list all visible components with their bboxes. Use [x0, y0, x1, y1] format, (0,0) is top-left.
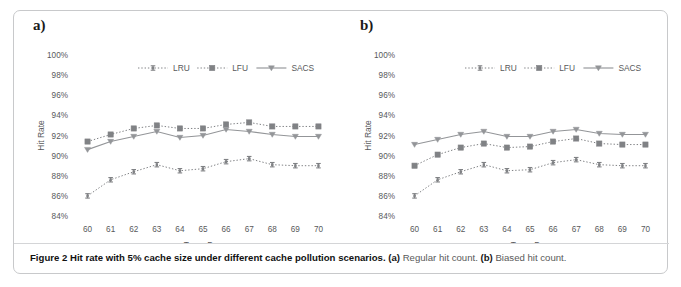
x-tick-label: 69	[291, 225, 301, 234]
y-tick-label: 100%	[47, 51, 68, 60]
x-tick-label: 65	[525, 225, 535, 234]
figure-caption: Figure 2 Hit rate with 5% cache size und…	[30, 251, 659, 264]
legend-label: SACS	[618, 63, 641, 73]
figure-root: a) 84%86%88%90%92%94%96%98%100%Hit Rate6…	[0, 0, 681, 287]
x-tick-label: 61	[106, 225, 116, 234]
series-line	[415, 160, 646, 196]
legend-label: SACS	[291, 63, 314, 73]
caption-a-text: Regular hit count.	[400, 252, 481, 263]
y-tick-label: 94%	[52, 111, 68, 120]
y-tick-label: 86%	[379, 192, 395, 201]
x-tick-label: 70	[314, 225, 324, 234]
panel-a-regular-hit-count: a) 84%86%88%90%92%94%96%98%100%Hit Rate6…	[14, 11, 341, 243]
caption-b-text: Biased hit count.	[493, 252, 567, 263]
x-tick-label: 68	[595, 225, 605, 234]
y-tick-label: 100%	[374, 51, 395, 60]
x-tick-label: 67	[245, 225, 255, 234]
x-tick-label: 65	[198, 225, 208, 234]
x-tick-label: 66	[549, 225, 559, 234]
y-tick-label: 88%	[379, 172, 395, 181]
y-tick-label: 92%	[52, 132, 68, 141]
x-tick-label: 61	[433, 225, 443, 234]
caption-a-label: (a)	[388, 252, 400, 263]
y-tick-label: 94%	[379, 111, 395, 120]
y-tick-label: 96%	[379, 91, 395, 100]
y-axis-title: Hit Rate	[36, 120, 46, 151]
legend-label: LRU	[173, 63, 190, 73]
x-tick-label: 62	[129, 225, 139, 234]
x-tick-label: 69	[618, 225, 628, 234]
caption-b-label: (b)	[481, 252, 493, 263]
y-tick-label: 92%	[379, 132, 395, 141]
y-tick-label: 90%	[52, 152, 68, 161]
figure-border-box: a) 84%86%88%90%92%94%96%98%100%Hit Rate6…	[13, 10, 668, 274]
caption-figure-number: Figure 2	[30, 252, 67, 263]
legend-label: LRU	[500, 63, 517, 73]
x-tick-label: 60	[410, 225, 420, 234]
x-tick-label: 64	[502, 225, 512, 234]
legend-label: LFU	[232, 63, 248, 73]
x-tick-label: 62	[456, 225, 466, 234]
y-tick-label: 96%	[52, 91, 68, 100]
series-lfu	[412, 136, 648, 168]
legend-marker-square	[210, 65, 215, 70]
x-tick-label: 60	[83, 225, 93, 234]
panels-container: a) 84%86%88%90%92%94%96%98%100%Hit Rate6…	[14, 11, 669, 243]
caption-title: Hit rate with 5% cache size under differ…	[67, 252, 388, 263]
chart-a-svg: 84%86%88%90%92%94%96%98%100%Hit Rate6061…	[14, 11, 341, 243]
series-line	[88, 129, 319, 149]
chart-legend: LRULFUSACS	[465, 63, 642, 73]
legend-marker-square	[537, 65, 542, 70]
legend-label: LFU	[559, 63, 575, 73]
y-tick-label: 86%	[52, 192, 68, 201]
y-tick-label: 98%	[379, 71, 395, 80]
chart-b-svg: 84%86%88%90%92%94%96%98%100%Hit Rate6061…	[341, 11, 668, 243]
y-tick-label: 88%	[52, 172, 68, 181]
y-tick-label: 98%	[52, 71, 68, 80]
series-line	[88, 159, 319, 196]
x-tick-label: 63	[479, 225, 489, 234]
y-tick-label: 90%	[379, 152, 395, 161]
series-lfu	[85, 120, 321, 144]
series-lru	[412, 157, 648, 198]
y-tick-label: 84%	[379, 212, 395, 221]
series-line	[415, 139, 646, 166]
x-tick-label: 63	[152, 225, 162, 234]
series-lru	[85, 156, 321, 198]
y-tick-label: 84%	[52, 212, 68, 221]
x-tick-label: 68	[268, 225, 278, 234]
chart-legend: LRULFUSACS	[138, 63, 315, 73]
x-tick-label: 70	[641, 225, 651, 234]
x-tick-label: 67	[572, 225, 582, 234]
x-tick-label: 66	[222, 225, 232, 234]
y-axis-title: Hit Rate	[363, 120, 373, 151]
caption-container: Figure 2 Hit rate with 5% cache size und…	[14, 243, 669, 274]
panel-b-biased-hit-count: b) 84%86%88%90%92%94%96%98%100%Hit Rate6…	[341, 11, 668, 243]
x-tick-label: 64	[175, 225, 185, 234]
